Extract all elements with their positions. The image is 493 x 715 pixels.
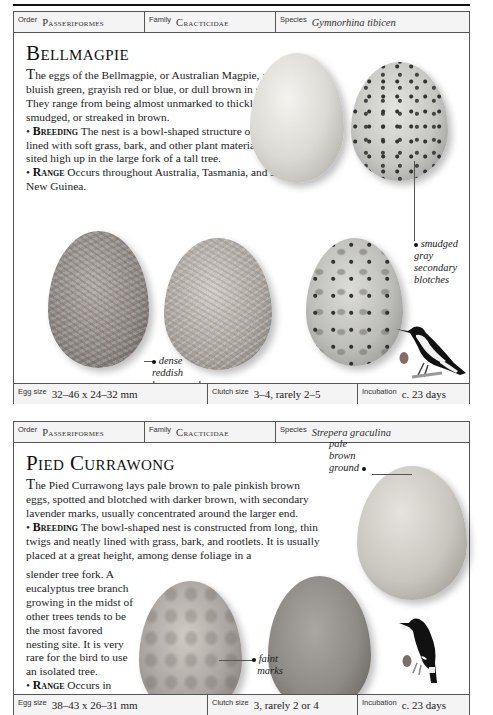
- species-label: Species: [280, 425, 307, 434]
- callout-leader-line: [414, 161, 415, 241]
- bullet-icon: •: [26, 125, 33, 137]
- description-text: he Pied Currawong lays pale brown to pal…: [26, 479, 309, 519]
- breeding-label: Breeding: [33, 124, 78, 138]
- range-label: Range: [33, 678, 65, 692]
- taxonomy-bar: Order Passeriformes Family Cracticidae S…: [14, 422, 469, 443]
- callout-dot-icon: [252, 658, 256, 662]
- order-label: Order: [18, 425, 37, 434]
- bellmagpie-bird-icon: [394, 323, 469, 387]
- order-cell: Order Passeriformes: [14, 12, 145, 32]
- clutch-size-label: Clutch size: [212, 387, 249, 396]
- species-entry-pied-currawong: Order Passeriformes Family Cracticidae S…: [13, 421, 470, 715]
- callout-leader-line: [219, 660, 255, 661]
- taxonomy-bar: Order Passeriformes Family Cracticidae S…: [14, 12, 469, 33]
- clutch-size-cell: Clutch size 3, rarely 2 or 4: [208, 695, 358, 715]
- drop-letter: T: [26, 476, 35, 492]
- callout-dot-icon: [362, 467, 366, 471]
- incubation-cell: Incubation c. 23 days: [358, 695, 469, 715]
- bullet-icon: •: [26, 166, 33, 178]
- clutch-size-value: 3–4, rarely 2–5: [254, 388, 321, 400]
- species-description-continued: slender tree fork. A eucalyptus tree bra…: [26, 568, 136, 715]
- order-value: Passeriformes: [42, 427, 104, 438]
- species-description: The Pied Currawong lays pale brown to pa…: [26, 478, 326, 562]
- egg-image-streaked: [164, 238, 272, 370]
- egg-image-pale-brown: [357, 466, 467, 600]
- incubation-value: c. 23 days: [402, 388, 446, 400]
- egg-size-label: Egg size: [18, 387, 47, 396]
- incubation-value: c. 23 days: [402, 699, 446, 711]
- species-title: Pied Currawong: [26, 451, 175, 476]
- family-value: Cracticidae: [176, 17, 229, 28]
- order-cell: Order Passeriformes: [14, 422, 145, 442]
- egg-stats-bar: Egg size 38–43 x 26–31 mm Clutch size 3,…: [14, 694, 469, 715]
- pied-currawong-bird-icon: [397, 613, 447, 687]
- egg-size-cell: Egg size 32–46 x 24–32 mm: [14, 384, 208, 404]
- species-cell: Species Gymnorhina tibicen: [276, 12, 469, 32]
- callout-leader-line: [372, 474, 412, 475]
- species-title: Bellmagpie: [26, 41, 129, 66]
- egg-image-dense-marks: [48, 231, 149, 368]
- incubation-label: Incubation: [362, 698, 397, 707]
- egg-swatch: [403, 655, 412, 667]
- egg-image-gray-blotched: [306, 238, 403, 366]
- callout-dot-icon: [152, 360, 156, 364]
- egg-size-value: 38–43 x 26–31 mm: [52, 699, 138, 711]
- callout-faint-marks: faint marks: [252, 653, 283, 677]
- egg-stats-bar: Egg size 32–46 x 24–32 mm Clutch size 3–…: [14, 383, 469, 404]
- breeding-text-continued: slender tree fork. A eucalyptus tree bra…: [26, 568, 133, 677]
- callout-pale-brown-ground: pale brown ground: [329, 438, 366, 474]
- incubation-label: Incubation: [362, 387, 397, 396]
- species-value: Gymnorhina tibicen: [312, 17, 396, 28]
- family-label: Family: [149, 15, 171, 24]
- family-label: Family: [149, 425, 171, 434]
- species-value: Strepera graculina: [312, 427, 391, 438]
- egg-image-darker: [268, 576, 371, 713]
- incubation-cell: Incubation c. 23 days: [358, 384, 469, 404]
- family-cell: Family Cracticidae: [145, 422, 276, 442]
- order-label: Order: [18, 15, 37, 24]
- range-label: Range: [33, 165, 65, 179]
- callout-dot-icon: [414, 243, 418, 247]
- egg-image-spotted: [351, 62, 448, 181]
- page-top-rule: [13, 4, 470, 6]
- species-entry-bellmagpie: Order Passeriformes Family Cracticidae S…: [13, 11, 470, 404]
- species-label: Species: [280, 15, 307, 24]
- clutch-size-label: Clutch size: [212, 698, 249, 707]
- bullet-icon: •: [26, 679, 33, 691]
- egg-size-value: 32–46 x 24–32 mm: [52, 388, 138, 400]
- family-value: Cracticidae: [176, 427, 229, 438]
- bullet-icon: •: [26, 521, 33, 533]
- family-cell: Family Cracticidae: [145, 12, 276, 32]
- callout-smudged-gray: smudged gray secondary blotches: [414, 238, 469, 286]
- order-value: Passeriformes: [42, 17, 104, 28]
- egg-image-pale: [250, 53, 344, 183]
- species-cell: Species Strepera graculina: [276, 422, 469, 442]
- drop-letter: T: [26, 66, 35, 82]
- clutch-size-cell: Clutch size 3–4, rarely 2–5: [208, 384, 358, 404]
- egg-swatch: [400, 352, 409, 364]
- breeding-label: Breeding: [33, 520, 78, 534]
- clutch-size-value: 3, rarely 2 or 4: [254, 699, 319, 711]
- egg-size-label: Egg size: [18, 698, 47, 707]
- egg-size-cell: Egg size 38–43 x 26–31 mm: [14, 695, 208, 715]
